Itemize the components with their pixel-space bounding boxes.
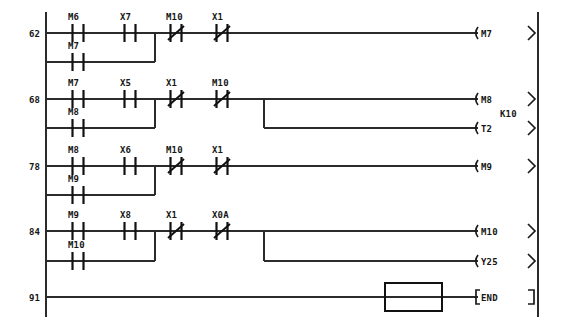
timer-preset-K10: K10 bbox=[500, 109, 517, 119]
contact-label-M8: M8 bbox=[68, 107, 79, 117]
contact-label-M10: M10 bbox=[212, 78, 229, 88]
instruction-label-END: END bbox=[481, 293, 498, 303]
coil-close-paren bbox=[528, 121, 535, 135]
contact-label-X1: X1 bbox=[212, 12, 223, 22]
contact-label-X1: X1 bbox=[166, 210, 177, 220]
contact-label-M10: M10 bbox=[166, 145, 183, 155]
step-number-91: 91 bbox=[29, 293, 40, 303]
coil-label-Y25: Y25 bbox=[481, 257, 498, 267]
coil-close-paren bbox=[528, 26, 535, 40]
instruction-close-bracket bbox=[528, 290, 534, 304]
ladder-logic-canvas[interactable]: 62M6X7M10X1M7M768M7X5X1M10M8M8T2K1078M8X… bbox=[0, 0, 569, 329]
contact-label-X1: X1 bbox=[166, 78, 177, 88]
coil-close-paren bbox=[528, 224, 535, 238]
contact-label-M8: M8 bbox=[68, 145, 79, 155]
contact-label-X7: X7 bbox=[120, 12, 131, 22]
contact-label-X0A: X0A bbox=[212, 210, 229, 220]
step-number-84: 84 bbox=[29, 227, 41, 237]
step-number-78: 78 bbox=[29, 162, 40, 172]
step-number-68: 68 bbox=[29, 95, 40, 105]
step-number-62: 62 bbox=[29, 29, 40, 39]
contact-label-X8: X8 bbox=[120, 210, 131, 220]
contact-label-M10: M10 bbox=[68, 240, 85, 250]
contact-label-X1: X1 bbox=[212, 145, 223, 155]
contact-label-M7: M7 bbox=[68, 41, 79, 51]
coil-label-T2: T2 bbox=[481, 124, 492, 134]
contact-label-M9: M9 bbox=[68, 174, 79, 184]
contact-label-X6: X6 bbox=[120, 145, 131, 155]
coil-label-M9: M9 bbox=[481, 162, 492, 172]
coil-close-paren bbox=[528, 254, 535, 268]
contact-label-M7: M7 bbox=[68, 78, 79, 88]
contact-label-X5: X5 bbox=[120, 78, 131, 88]
coil-label-M8: M8 bbox=[481, 95, 492, 105]
contact-label-M9: M9 bbox=[68, 210, 79, 220]
contact-label-M6: M6 bbox=[68, 12, 79, 22]
coil-label-M10: M10 bbox=[481, 227, 498, 237]
coil-label-M7: M7 bbox=[481, 29, 492, 39]
ladder-diagram-viewport: 62M6X7M10X1M7M768M7X5X1M10M8M8T2K1078M8X… bbox=[0, 0, 569, 329]
contact-label-M10: M10 bbox=[166, 12, 183, 22]
coil-close-paren bbox=[528, 92, 535, 106]
coil-close-paren bbox=[528, 159, 535, 173]
